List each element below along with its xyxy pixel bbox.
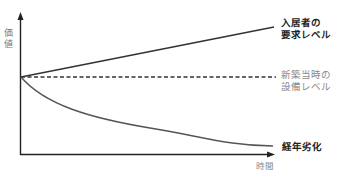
label-line-1: 入居者の [281,17,331,29]
aging-deterioration-curve [21,77,273,146]
label-line-1: 新築当時の [281,69,331,81]
aging-deterioration-label: 経年劣化 [282,141,322,153]
label-line-2: 設備レベル [281,81,331,93]
x-axis-arrow-icon [267,152,275,158]
x-axis-label: 時間 [256,159,274,171]
tenant-requirement-label: 入居者の 要求レベル [281,17,331,41]
y-axis [18,12,24,155]
x-axis [20,152,275,158]
initial-facility-label: 新築当時の 設備レベル [281,69,331,93]
label-line-2: 要求レベル [281,29,331,41]
tenant-requirement-line [21,27,274,77]
label-line-1: 経年劣化 [282,141,322,153]
y-axis-label: 価値 [3,28,14,50]
y-axis-arrow-icon [18,12,24,20]
